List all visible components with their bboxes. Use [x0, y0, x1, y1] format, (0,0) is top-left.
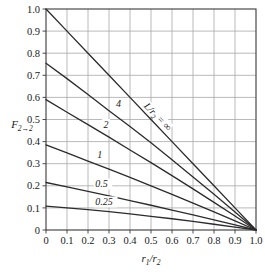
x-tick-label: 1.0 [249, 235, 262, 246]
chart-canvas: 00.10.20.30.40.50.60.70.80.91.0 00.10.20… [0, 0, 265, 272]
curve-label-group: 0.5 [94, 178, 113, 190]
curve-label-group: 2 [102, 119, 110, 131]
y-tick-label: 0.4 [27, 136, 41, 147]
curve-label-text: 4 [116, 98, 121, 109]
x-tick-label: 0.6 [165, 235, 178, 246]
x-tick-label: 0.2 [81, 235, 94, 246]
view-factor-chart: 00.10.20.30.40.50.60.70.80.91.0 00.10.20… [0, 0, 265, 272]
curve-label-group: 4 [115, 98, 123, 110]
y-tick-label: 0.6 [27, 92, 40, 103]
y-tick-label: 0.8 [27, 48, 40, 59]
y-tick-label: 0.1 [27, 203, 40, 214]
y-tick-label: 0.3 [27, 158, 40, 169]
x-tick-label: 0.9 [228, 235, 241, 246]
y-tick-label: 0.7 [27, 70, 40, 81]
y-tick-label: 1.0 [27, 4, 40, 15]
x-tick-label: 0.4 [123, 235, 137, 246]
x-tick-label: 0.1 [60, 235, 73, 246]
x-tick-label: 0 [43, 235, 48, 246]
y-tick-label: 0.2 [27, 180, 40, 191]
curve-label-text: 0.25 [95, 196, 113, 207]
curve-label-text: 1 [97, 149, 102, 160]
x-tick-label: 0.8 [207, 235, 220, 246]
x-tick-label: 0.3 [102, 235, 115, 246]
curve-label-group: 0.25 [94, 196, 118, 208]
x-tick-label: 0.7 [186, 235, 199, 246]
y-tick-label: 0.9 [27, 26, 40, 37]
curve-label-group: 1 [96, 149, 104, 161]
x-tick-label: 0.5 [144, 235, 157, 246]
curve-label-text: 2 [104, 119, 109, 130]
y-tick-label: 0 [35, 225, 40, 236]
curve-label-text: 0.5 [95, 178, 108, 189]
